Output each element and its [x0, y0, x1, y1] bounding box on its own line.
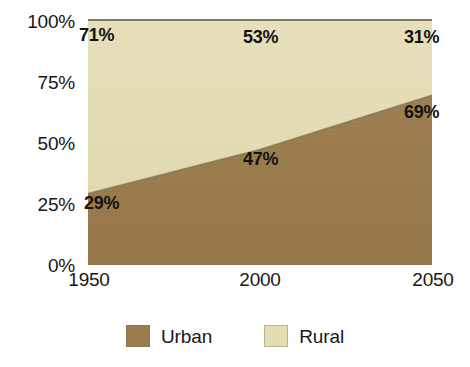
legend-label-rural: Rural [299, 327, 344, 346]
x-axis-tick-2050: 2050 [388, 270, 470, 289]
data-label-urban-1950: 29% [84, 194, 119, 212]
y-axis-tick-100: 100% [5, 12, 75, 31]
data-label-rural-2050: 31% [404, 28, 439, 46]
legend-item-rural: Rural [264, 325, 344, 347]
y-axis-tick-50: 50% [5, 134, 75, 153]
stacked-area-chart: 100% 75% 50% 25% 0% 1950 2000 2050 71% 5… [0, 0, 470, 367]
data-label-rural-1950: 71% [79, 26, 114, 44]
legend-label-urban: Urban [161, 327, 212, 346]
plot-svg [88, 19, 432, 265]
x-axis-tick-1950: 1950 [44, 270, 134, 289]
x-axis-tick-2000: 2000 [215, 270, 305, 289]
chart-legend: Urban Rural [0, 325, 470, 347]
y-axis-tick-75: 75% [5, 73, 75, 92]
y-axis-tick-25: 25% [5, 195, 75, 214]
legend-swatch-urban-icon [126, 325, 150, 347]
legend-swatch-rural-icon [264, 325, 288, 347]
data-label-rural-2000: 53% [243, 28, 278, 46]
data-label-urban-2050: 69% [404, 103, 439, 121]
data-label-urban-2000: 47% [243, 150, 278, 168]
legend-item-urban: Urban [126, 325, 212, 347]
plot-area [88, 19, 432, 265]
